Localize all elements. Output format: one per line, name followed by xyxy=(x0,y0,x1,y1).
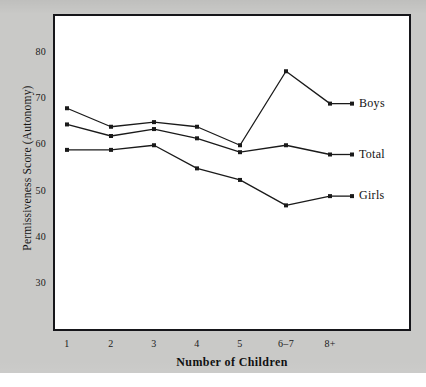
data-point-marker xyxy=(65,122,69,126)
data-point-marker xyxy=(238,143,242,147)
data-point-marker xyxy=(152,143,156,147)
data-point-marker xyxy=(284,69,288,73)
data-point-marker xyxy=(152,120,156,124)
data-point-marker xyxy=(284,143,288,147)
series-layer xyxy=(65,69,354,207)
x-tick-label-6: 6–7 xyxy=(266,338,306,349)
data-point-marker xyxy=(109,125,113,129)
series-line-girls xyxy=(67,145,330,205)
data-point-marker xyxy=(65,148,69,152)
data-point-marker xyxy=(238,150,242,154)
page-bottom-margin xyxy=(0,373,426,387)
data-point-marker xyxy=(328,153,332,157)
data-point-marker xyxy=(195,166,199,170)
x-tick-label-1: 1 xyxy=(47,338,87,349)
data-point-marker xyxy=(350,153,354,157)
y-tick-label-80: 80 xyxy=(22,46,46,57)
x-tick-label-4: 4 xyxy=(177,338,217,349)
series-label-boys: Boys xyxy=(359,96,385,111)
data-point-marker xyxy=(350,102,354,106)
data-point-marker xyxy=(195,136,199,140)
x-tick-label-2: 2 xyxy=(91,338,131,349)
data-point-marker xyxy=(109,148,113,152)
data-point-marker xyxy=(195,125,199,129)
data-point-marker xyxy=(350,194,354,198)
x-tick-label-5: 5 xyxy=(220,338,260,349)
data-point-marker xyxy=(152,127,156,131)
data-point-marker xyxy=(65,106,69,110)
data-point-marker xyxy=(238,178,242,182)
data-point-marker xyxy=(109,134,113,138)
x-tick-label-3: 3 xyxy=(134,338,174,349)
x-tick-label-7: 8+ xyxy=(310,338,350,349)
y-tick-label-30: 30 xyxy=(22,277,46,288)
series-label-girls: Girls xyxy=(359,188,385,203)
x-axis-title: Number of Children xyxy=(53,355,411,370)
y-axis-title: Permissiveness Score (Autonomy) xyxy=(21,63,33,273)
data-point-marker xyxy=(328,194,332,198)
series-label-total: Total xyxy=(359,147,385,162)
data-point-marker xyxy=(284,203,288,207)
chart-figure: 304050607080 123456–78+ BoysTotalGirls P… xyxy=(0,0,426,387)
data-point-marker xyxy=(328,102,332,106)
